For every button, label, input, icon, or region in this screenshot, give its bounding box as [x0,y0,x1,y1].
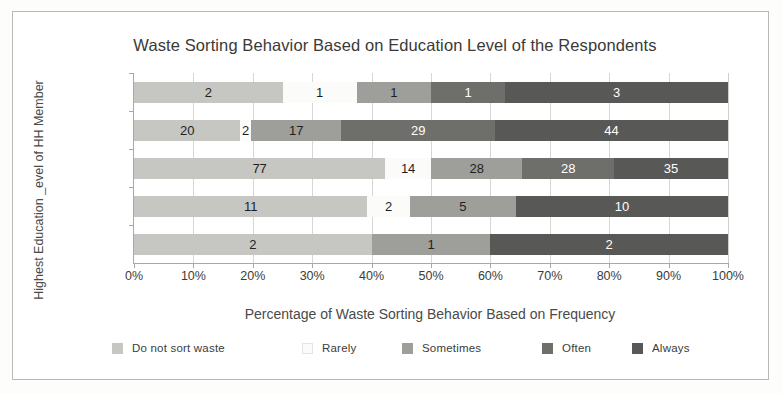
bar-value-label: 2 [367,196,409,217]
bar-value-label: 17 [251,120,341,141]
x-tick-label: 100% [698,269,758,283]
bar-segment: 2 [240,120,251,141]
y-tick-mark [129,225,134,226]
legend-swatch-icon [302,343,313,354]
legend-label: Often [562,342,591,354]
legend-swatch-icon [112,343,123,354]
bar-segment: 77 [134,158,385,179]
x-tick-label: 80% [579,269,639,283]
y-axis-title: Highest Education _evel of HH Member [32,65,46,315]
bar-segment: 1 [372,234,491,255]
bar-segment: 5 [410,196,516,217]
legend-item[interactable]: Rarely [302,339,356,357]
bar-value-label: 14 [385,158,431,179]
legend-item[interactable]: Do not sort waste [112,339,225,357]
bar-segment: 2 [134,234,372,255]
bar-row: 112510 [134,196,728,217]
bar-segment: 2 [367,196,409,217]
x-tick-mark [609,263,610,268]
legend-label: Sometimes [422,342,481,354]
bar-segment: 17 [251,120,341,141]
bar-segment: 44 [495,120,728,141]
bar-value-label: 1 [431,82,505,103]
bar-value-label: 2 [134,82,283,103]
bar-value-label: 2 [240,120,251,141]
x-axis-title: Percentage of Waste Sorting Behavior Bas… [110,306,750,322]
bar-value-label: 44 [495,120,728,141]
bar-segment: 14 [385,158,431,179]
bar-segment: 20 [134,120,240,141]
y-tick-mark [129,187,134,188]
bar-segment: 29 [341,120,495,141]
x-tick-mark [193,263,194,268]
plot-area: S2/S3D3/S1SMASMPSD 0%10%20%30%40%50%60%7… [133,73,728,264]
bar-row: 202172944 [134,120,728,141]
bar-segment: 1 [431,82,505,103]
bar-segment: 1 [283,82,357,103]
bar-value-label: 1 [372,234,491,255]
bar-value-label: 10 [516,196,728,217]
x-tick-mark [669,263,670,268]
bar-value-label: 29 [341,120,495,141]
bar-segment: 2 [490,234,728,255]
bar-value-label: 20 [134,120,240,141]
chart-figure: Waste Sorting Behavior Based on Educatio… [0,0,783,394]
bar-value-label: 3 [505,82,728,103]
x-tick-label: 10% [163,269,223,283]
bar-value-label: 28 [522,158,613,179]
bar-value-label: 35 [614,158,728,179]
y-tick-mark [129,149,134,150]
x-tick-label: 20% [223,269,283,283]
bar-row: 212 [134,234,728,255]
x-tick-label: 40% [342,269,402,283]
x-tick-mark [550,263,551,268]
x-tick-mark [728,263,729,268]
x-tick-mark [134,263,135,268]
bar-value-label: 1 [283,82,357,103]
bar-value-label: 28 [431,158,522,179]
bar-segment: 35 [614,158,728,179]
bar-segment: 10 [516,196,728,217]
legend-label: Do not sort waste [132,342,225,354]
legend-item[interactable]: Often [542,339,591,357]
legend-swatch-icon [632,343,643,354]
x-tick-mark [490,263,491,268]
x-tick-label: 30% [282,269,342,283]
bar-row: 7714282835 [134,158,728,179]
x-tick-mark [312,263,313,268]
bar-value-label: 1 [357,82,431,103]
legend-swatch-icon [542,343,553,354]
chart-legend: Do not sort wasteRarelySometimesOftenAlw… [112,339,712,359]
bar-segment: 1 [357,82,431,103]
chart-title: Waste Sorting Behavior Based on Educatio… [60,36,730,55]
bar-value-label: 2 [490,234,728,255]
x-tick-mark [372,263,373,268]
bar-value-label: 2 [134,234,372,255]
bar-segment: 2 [134,82,283,103]
x-tick-label: 0% [104,269,164,283]
bar-value-label: 5 [410,196,516,217]
bar-segment: 28 [431,158,522,179]
x-tick-label: 50% [401,269,461,283]
x-tick-label: 70% [520,269,580,283]
bar-row: 21113 [134,82,728,103]
bar-value-label: 77 [134,158,385,179]
bar-value-label: 11 [134,196,367,217]
x-tick-label: 60% [460,269,520,283]
bar-segment: 28 [522,158,613,179]
legend-item[interactable]: Always [632,339,690,357]
x-tick-mark [253,263,254,268]
legend-label: Rarely [322,342,356,354]
y-tick-mark [129,73,134,74]
y-tick-mark [129,111,134,112]
bar-segment: 3 [505,82,728,103]
legend-swatch-icon [402,343,413,354]
gridline [728,73,729,263]
legend-item[interactable]: Sometimes [402,339,481,357]
x-tick-label: 90% [639,269,699,283]
legend-label: Always [652,342,690,354]
x-tick-mark [431,263,432,268]
bar-segment: 11 [134,196,367,217]
